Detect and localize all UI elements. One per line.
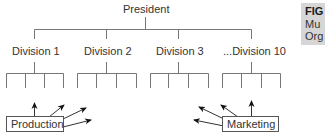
division-1-node: Division 1: [12, 45, 60, 58]
figure-caption-title: FIG: [305, 5, 323, 17]
marketing-box: Marketing: [222, 116, 279, 132]
division-3-node: Division 3: [156, 45, 204, 58]
figure-caption-line-1: Mu: [305, 18, 320, 30]
figure-caption-panel: FIG Mu Org: [301, 3, 325, 45]
figure-caption-line-2: Org: [305, 30, 323, 42]
division-2-node: Division 2: [84, 45, 132, 58]
production-box: Production: [6, 116, 64, 132]
president-node: President: [123, 3, 169, 16]
division-10-node: ...Division 10: [223, 45, 286, 58]
